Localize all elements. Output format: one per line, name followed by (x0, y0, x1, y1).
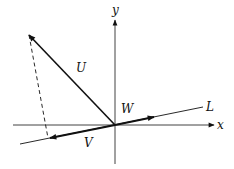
vector-V-label: V (84, 136, 94, 150)
projection-diagram: x y L U W V (0, 0, 234, 169)
vector-U (29, 35, 115, 125)
x-axis-label: x (217, 118, 224, 132)
vector-W (115, 117, 154, 125)
line-L-label: L (205, 100, 214, 114)
y-axis-label: y (111, 3, 119, 17)
vector-W-label: W (121, 102, 135, 116)
vector-U-label: U (76, 61, 87, 75)
dashed-projection-line (29, 35, 48, 138)
vector-V (50, 125, 115, 138)
